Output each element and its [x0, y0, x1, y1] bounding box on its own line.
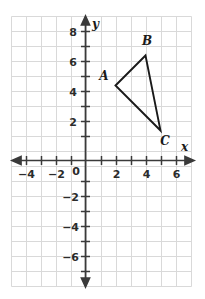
x-axis-arrow-left: [12, 157, 21, 165]
triangle-abc: [116, 56, 161, 131]
x-tick-label: 2: [113, 168, 121, 181]
y-tick-label: 2: [69, 116, 77, 129]
origin-label: 0: [72, 165, 80, 178]
y-tick-label: 6: [69, 56, 77, 69]
x-axis-label: x: [180, 140, 189, 154]
x-tick-label: −2: [48, 168, 65, 181]
y-tick-label: −6: [62, 251, 79, 264]
x-tick-labels: −4 −2 0 2 4 6: [18, 165, 181, 181]
y-tick-label: −2: [62, 191, 79, 204]
x-tick-label: 4: [143, 168, 151, 181]
y-tick-label: 4: [69, 86, 77, 99]
y-axis-arrow-down: [82, 278, 90, 287]
coordinate-plane-svg: −4 −2 0 2 4 6 8 6 4 2 −2 −4 −6 x y A B C: [0, 0, 205, 299]
y-tick-label: 8: [69, 26, 77, 39]
grid-lines: [12, 17, 192, 287]
x-axis-arrow-right: [185, 157, 194, 165]
x-tick-label: −4: [18, 168, 35, 181]
y-axis-label: y: [91, 17, 100, 31]
vertex-label-b: B: [141, 34, 152, 48]
y-tick-label: −4: [62, 221, 79, 234]
vertex-label-c: C: [160, 134, 170, 148]
coordinate-plane-figure: −4 −2 0 2 4 6 8 6 4 2 −2 −4 −6 x y A B C: [0, 0, 205, 299]
y-axis-arrow-up: [82, 16, 90, 25]
vertex-label-a: A: [98, 69, 108, 83]
x-tick-label: 6: [173, 168, 181, 181]
